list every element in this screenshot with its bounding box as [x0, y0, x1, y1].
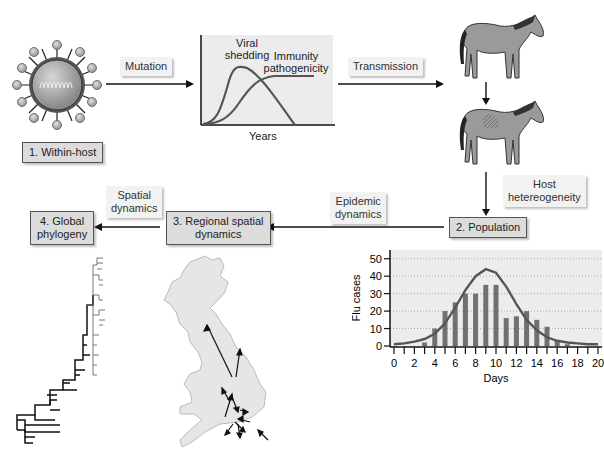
- svg-text:16: 16: [551, 357, 563, 369]
- svg-text:0: 0: [391, 357, 397, 369]
- svg-text:50: 50: [370, 253, 382, 265]
- within-host-xlabel: Years: [249, 130, 277, 142]
- svg-text:0: 0: [376, 340, 382, 352]
- within-host-chart: Viral shedding Immunity pathogenicity: [199, 33, 335, 127]
- stage-population-label: 2. Population: [456, 221, 520, 233]
- horse-healthy-icon: [455, 10, 550, 82]
- svg-text:20: 20: [592, 357, 604, 369]
- arrow-left-icon: [266, 222, 446, 232]
- process-mutation: Mutation: [120, 57, 172, 76]
- arrow-right-icon: [104, 79, 194, 89]
- svg-text:40: 40: [370, 270, 382, 282]
- chart-x-label: Days: [483, 372, 509, 384]
- svg-text:12: 12: [510, 357, 522, 369]
- svg-text:10: 10: [490, 357, 502, 369]
- svg-text:2: 2: [411, 357, 417, 369]
- svg-text:10: 10: [370, 323, 382, 335]
- svg-text:14: 14: [531, 357, 543, 369]
- process-transmission: Transmission: [348, 57, 423, 76]
- svg-text:18: 18: [571, 357, 583, 369]
- stage-population: 2. Population: [449, 217, 527, 238]
- process-epidemic-dynamics: Epidemic dynamics: [330, 192, 386, 224]
- horse-infected-icon: [455, 96, 550, 168]
- virus-illustration: [12, 40, 102, 130]
- stage-within-host: 1. Within-host: [22, 142, 103, 163]
- chart-x-ticks: 02468101214161820: [391, 347, 604, 369]
- arrow-down-icon: [481, 172, 491, 217]
- curve-immunity-label: Immunity pathogenicity: [261, 50, 331, 74]
- uk-map: [150, 252, 290, 452]
- svg-text:6: 6: [452, 357, 458, 369]
- process-spatial-dynamics: Spatial dynamics: [106, 186, 162, 218]
- svg-text:20: 20: [370, 305, 382, 317]
- chart-y-ticks: 01020304050: [370, 253, 390, 352]
- svg-text:30: 30: [370, 288, 382, 300]
- epidemic-bar-chart: 01020304050 02468101214161820 Flu cases …: [352, 250, 604, 390]
- process-transmission-label: Transmission: [353, 60, 418, 72]
- stage-within-host-label: 1. Within-host: [29, 146, 96, 158]
- process-host-heterogeneity: Host hetereogeneity: [503, 175, 586, 207]
- arrow-left-icon: [94, 222, 162, 232]
- phylogenetic-tree: [5, 255, 105, 450]
- chart-y-label: Flu cases: [352, 274, 362, 322]
- stage-regional-spatial: 3. Regional spatial dynamics: [166, 211, 271, 245]
- process-mutation-label: Mutation: [125, 60, 167, 72]
- arrow-right-icon: [336, 79, 446, 89]
- stage-global-phylogeny: 4. Global phylogeny: [30, 211, 94, 245]
- svg-text:4: 4: [432, 357, 438, 369]
- svg-text:8: 8: [473, 357, 479, 369]
